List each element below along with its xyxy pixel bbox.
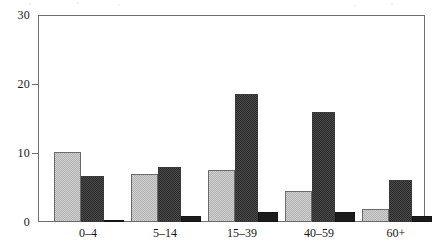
bar-group-5-14 [127, 15, 204, 222]
x-tick-label-40-59: 40–59 [304, 226, 334, 240]
bar-40-59-series-3 [335, 212, 355, 222]
scan-artifact [0, 0, 439, 10]
bar-5-14-series-2 [158, 167, 181, 222]
bar-40-59-series-2 [312, 112, 335, 222]
bar-15-39-series-3 [258, 212, 278, 222]
bar-0-4-series-1 [54, 152, 81, 222]
x-tick-label-60-plus: 60+ [387, 226, 406, 240]
bars-layer [38, 15, 425, 222]
bar-0-4-series-3 [104, 220, 124, 222]
bar-group-60-plus [358, 15, 435, 222]
y-tick-label-30: 30 [18, 9, 30, 21]
bar-group-15-39 [204, 15, 281, 222]
y-tick-label-0: 0 [24, 216, 30, 228]
x-tick-label-0-4: 0–4 [79, 226, 97, 240]
bar-5-14-series-1 [131, 174, 158, 222]
x-tick-label-5-14: 5–14 [153, 226, 177, 240]
y-axis: 30 20 10 0 [0, 0, 39, 252]
bar-60-plus-series-3 [412, 216, 432, 222]
bar-15-39-series-1 [208, 170, 235, 222]
bar-group-40-59 [281, 15, 358, 222]
y-tick-label-20: 20 [18, 78, 30, 90]
x-axis: 0–4 5–14 15–39 40–59 60+ [38, 226, 425, 250]
bar-group-0-4 [50, 15, 127, 222]
bar-40-59-series-1 [285, 191, 312, 222]
y-tick-label-10: 10 [18, 147, 30, 159]
bar-chart: 30 20 10 0 [0, 0, 439, 252]
bar-15-39-series-2 [235, 94, 258, 222]
bar-0-4-series-2 [81, 176, 104, 222]
bar-60-plus-series-2 [389, 180, 412, 222]
bar-60-plus-series-1 [362, 209, 389, 222]
x-tick-label-15-39: 15–39 [227, 226, 257, 240]
bar-5-14-series-3 [181, 216, 201, 222]
